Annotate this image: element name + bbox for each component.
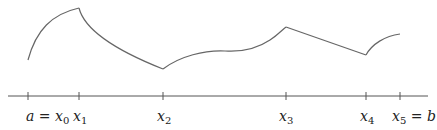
curve-piece-2: [79, 8, 163, 69]
partition-diagram: a = x0 x1 x2 x3 x4 x5 = b: [0, 0, 437, 130]
label-x4: x4: [360, 108, 374, 126]
curve-piece-4: [286, 27, 366, 55]
label-x3: x3: [279, 108, 293, 126]
curve-piece-3: [163, 27, 286, 69]
partition-labels: a = x0 x1 x2 x3 x4 x5 = b: [26, 108, 436, 126]
label-x5: x5 = b: [392, 108, 436, 126]
label-x2: x2: [157, 108, 171, 126]
label-x0: a = x0: [26, 108, 69, 126]
curve-piece-1: [28, 8, 79, 60]
function-curve: [28, 8, 400, 69]
curve-piece-5: [366, 34, 400, 55]
label-x1: x1: [73, 108, 87, 126]
